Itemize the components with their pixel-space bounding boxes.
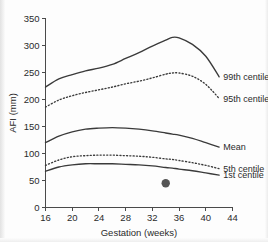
curve-1st-centile: [46, 164, 220, 175]
series-labels: 99th centile95th centileMean5th centile1…: [223, 72, 268, 180]
measurement-point[interactable]: [162, 179, 170, 187]
curve-5th-centile: [46, 155, 220, 169]
x-tick-marks: [46, 208, 233, 212]
x-tick-label: 28: [120, 212, 131, 223]
y-tick-label: 150: [24, 121, 40, 132]
y-tick-label: 200: [24, 94, 40, 105]
x-tick-label: 32: [147, 212, 158, 223]
series-label-1st-centile: 1st centile: [223, 170, 264, 180]
y-axis: 050100150200250300350 AFI (mm): [7, 13, 46, 213]
series-label-95th-centile: 95th centile: [223, 94, 268, 104]
y-tick-label: 0: [34, 202, 39, 213]
y-tick-label: 250: [24, 67, 40, 78]
curve-99th-centile: [46, 37, 220, 87]
y-tick-marks: [42, 19, 46, 208]
series-curves: [46, 37, 220, 175]
x-tick-label: 40: [200, 212, 211, 223]
curve-95th-centile: [46, 73, 220, 107]
series-label-99th-centile: 99th centile: [223, 72, 268, 82]
y-tick-labels: 050100150200250300350: [24, 13, 40, 213]
afi-centile-chart: 050100150200250300350 AFI (mm) 162024283…: [0, 0, 268, 242]
x-axis-title: Gestation (weeks): [101, 227, 178, 238]
y-tick-label: 350: [24, 13, 40, 24]
curve-mean: [46, 128, 220, 147]
x-tick-label: 20: [67, 212, 78, 223]
y-tick-label: 300: [24, 40, 40, 51]
y-tick-label: 50: [29, 175, 40, 186]
x-tick-label: 44: [227, 212, 238, 223]
y-axis-title: AFI (mm): [7, 93, 18, 133]
chart-container: 050100150200250300350 AFI (mm) 162024283…: [0, 0, 268, 242]
x-tick-label: 36: [174, 212, 185, 223]
y-tick-label: 100: [24, 148, 40, 159]
annotations: [162, 179, 170, 187]
x-tick-label: 16: [40, 212, 51, 223]
x-tick-labels: 1620242832364044: [40, 212, 238, 223]
x-tick-label: 24: [94, 212, 105, 223]
x-axis: 1620242832364044 Gestation (weeks): [40, 208, 238, 238]
series-label-mean: Mean: [223, 142, 246, 152]
